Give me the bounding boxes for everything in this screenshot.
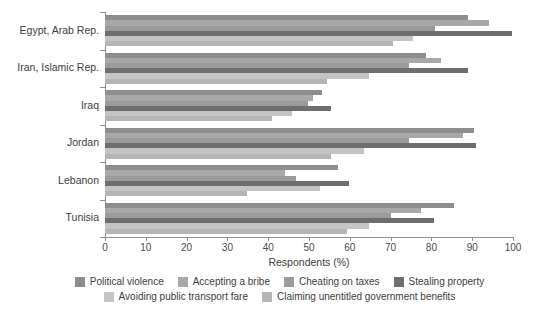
category-label: Jordan xyxy=(3,136,99,148)
x-axis-tick-label: 100 xyxy=(498,242,528,253)
bar-row xyxy=(105,154,513,159)
y-axis-tick xyxy=(100,50,106,51)
bar-row xyxy=(105,191,513,196)
legend-swatch-icon xyxy=(284,277,294,287)
bar-group xyxy=(105,128,513,159)
legend-row-secondary: Avoiding public transport fareClaiming u… xyxy=(0,291,559,302)
y-axis-tick xyxy=(100,200,106,201)
category-label: Egypt, Arab Rep. xyxy=(3,24,99,36)
x-axis-tick-label: 40 xyxy=(253,242,283,253)
legend-swatch-icon xyxy=(262,292,272,302)
bar-row xyxy=(105,116,513,121)
legend-item[interactable]: Cheating on taxes xyxy=(284,276,380,287)
legend-item[interactable]: Political violence xyxy=(75,276,164,287)
x-axis-tick-label: 60 xyxy=(335,242,365,253)
bar[interactable] xyxy=(105,191,247,196)
bar[interactable] xyxy=(105,154,331,159)
bar-group xyxy=(105,165,513,196)
legend-label: Stealing property xyxy=(409,276,485,287)
x-axis-title: Respondents (%) xyxy=(105,256,513,268)
bar-row xyxy=(105,79,513,84)
bar[interactable] xyxy=(105,41,393,46)
legend-item[interactable]: Avoiding public transport fare xyxy=(104,291,248,302)
x-axis-tick xyxy=(227,237,228,241)
bar-group xyxy=(105,15,513,46)
x-axis-tick xyxy=(187,237,188,241)
legend-swatch-icon xyxy=(178,277,188,287)
plot-area xyxy=(105,12,513,237)
x-axis-tick-label: 90 xyxy=(457,242,487,253)
category-label: Iran, Islamic Rep. xyxy=(3,61,99,73)
legend-item[interactable]: Stealing property xyxy=(394,276,485,287)
x-axis-tick xyxy=(391,237,392,241)
bar-chart: Egypt, Arab Rep.Iran, Islamic Rep.IraqJo… xyxy=(0,0,559,322)
x-axis-tick xyxy=(309,237,310,241)
x-axis-tick xyxy=(350,237,351,241)
bar[interactable] xyxy=(105,229,347,234)
bar-group xyxy=(105,203,513,234)
legend-swatch-icon xyxy=(394,277,404,287)
y-axis-tick xyxy=(100,125,106,126)
x-axis-tick xyxy=(472,237,473,241)
legend-item[interactable]: Accepting a bribe xyxy=(178,276,270,287)
x-axis-tick-label: 70 xyxy=(376,242,406,253)
x-axis-tick xyxy=(268,237,269,241)
legend-label: Avoiding public transport fare xyxy=(119,291,248,302)
category-label: Tunisia xyxy=(3,211,99,223)
bar-row xyxy=(105,229,513,234)
legend-label: Political violence xyxy=(90,276,164,287)
y-axis-tick xyxy=(100,87,106,88)
x-axis-tick-label: 30 xyxy=(212,242,242,253)
bar-group xyxy=(105,53,513,84)
bar-row xyxy=(105,41,513,46)
category-axis-labels: Egypt, Arab Rep.Iran, Islamic Rep.IraqJo… xyxy=(0,0,99,322)
x-axis-tick xyxy=(105,237,106,241)
chart-legend: Political violenceAccepting a bribeCheat… xyxy=(0,276,559,306)
x-axis-tick xyxy=(146,237,147,241)
legend-item[interactable]: Claiming unentitled government benefits xyxy=(262,291,455,302)
y-axis-tick xyxy=(100,162,106,163)
legend-row-primary: Political violenceAccepting a bribeCheat… xyxy=(0,276,559,287)
bar[interactable] xyxy=(105,79,327,84)
legend-label: Accepting a bribe xyxy=(193,276,270,287)
x-axis-tick-label: 0 xyxy=(90,242,120,253)
x-axis-tick-label: 80 xyxy=(416,242,446,253)
category-label: Iraq xyxy=(3,99,99,111)
legend-swatch-icon xyxy=(75,277,85,287)
category-label: Lebanon xyxy=(3,174,99,186)
x-axis-tick xyxy=(513,237,514,241)
bar[interactable] xyxy=(105,116,272,121)
x-axis-tick-label: 10 xyxy=(131,242,161,253)
legend-swatch-icon xyxy=(104,292,114,302)
x-axis-tick xyxy=(431,237,432,241)
legend-label: Claiming unentitled government benefits xyxy=(277,291,455,302)
bar-group xyxy=(105,90,513,121)
x-axis-tick-label: 20 xyxy=(172,242,202,253)
x-axis-tick-label: 50 xyxy=(294,242,324,253)
legend-label: Cheating on taxes xyxy=(299,276,380,287)
y-axis-tick xyxy=(100,12,106,13)
